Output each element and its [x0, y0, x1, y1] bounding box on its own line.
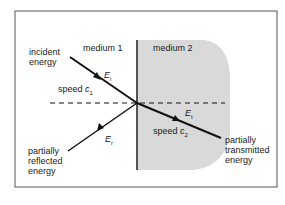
reflected-symbol-sub: r: [111, 140, 113, 146]
transmitted-label-line1: partially: [225, 135, 270, 145]
incident-symbol-sub: i: [110, 76, 111, 82]
speed2-label: speed c2: [153, 126, 188, 140]
reflected-label-line2: reflected: [28, 156, 63, 166]
transmitted-symbol: Et: [185, 108, 193, 120]
speed2-sub: 2: [185, 132, 188, 138]
speed2-text: speed: [153, 126, 180, 136]
reflected-symbol: Er: [105, 134, 113, 146]
transmitted-energy-label: partially transmitted energy: [225, 135, 270, 165]
medium2-label: medium 2: [153, 43, 193, 53]
incident-symbol: Ei: [104, 70, 111, 82]
speed1-text: speed: [58, 84, 85, 94]
speed1-sub: 1: [90, 90, 93, 96]
transmitted-symbol-sub: t: [191, 114, 193, 120]
reflected-label-line1: partially: [28, 146, 63, 156]
reflected-energy-label: partially reflected energy: [28, 146, 63, 176]
incident-energy-label: incident energy: [29, 47, 60, 67]
reflected-arrowhead: [97, 123, 104, 131]
medium2-region: [137, 40, 230, 170]
medium1-label: medium 1: [83, 43, 123, 53]
transmitted-label-line3: energy: [225, 155, 270, 165]
transmitted-label-line2: transmitted: [225, 145, 270, 155]
incident-label-line1: incident: [29, 47, 60, 57]
incident-label-line2: energy: [29, 57, 60, 67]
speed1-label: speed c1: [58, 84, 93, 98]
reflected-label-line3: energy: [28, 166, 63, 176]
